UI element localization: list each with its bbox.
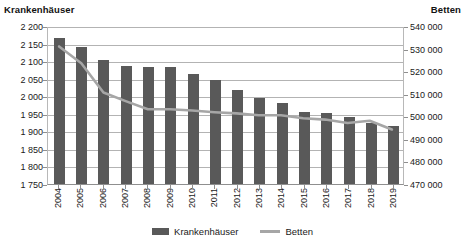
right-tick-mark bbox=[404, 117, 408, 118]
x-tick-label: 2016 bbox=[321, 188, 330, 208]
x-tick-label: 2012 bbox=[232, 188, 241, 208]
line-swatch-icon bbox=[260, 230, 280, 233]
x-tick-label: 2007 bbox=[121, 188, 130, 208]
legend-label-betten: Betten bbox=[285, 226, 312, 237]
legend-item-betten[interactable]: Betten bbox=[260, 226, 312, 237]
x-tick-label: 2006 bbox=[98, 188, 107, 208]
x-tick-mark bbox=[125, 185, 126, 189]
chart-legend: Krankenhäuser Betten bbox=[0, 226, 465, 237]
right-tick-label: 500 000 bbox=[410, 113, 443, 122]
x-tick-mark bbox=[393, 185, 394, 189]
x-tick-label: 2018 bbox=[366, 188, 375, 208]
x-tick-mark bbox=[326, 185, 327, 189]
left-tick-label: 1 800 bbox=[20, 163, 43, 172]
left-tick-label: 1 950 bbox=[20, 110, 43, 119]
left-tick-label: 2 200 bbox=[20, 23, 43, 32]
left-tick-mark bbox=[43, 185, 47, 186]
x-tick-mark bbox=[304, 185, 305, 189]
right-tick-label: 480 000 bbox=[410, 158, 443, 167]
x-tick-label: 2014 bbox=[277, 188, 286, 208]
right-axis-title: Betten bbox=[431, 4, 461, 15]
x-tick-label: 2009 bbox=[165, 188, 174, 208]
betten-line-path bbox=[59, 46, 392, 129]
right-tick-label: 470 000 bbox=[410, 181, 443, 190]
x-tick-label: 2015 bbox=[299, 188, 308, 208]
left-tick-label: 1 900 bbox=[20, 128, 43, 137]
right-tick-mark bbox=[404, 95, 408, 96]
right-tick-label: 490 000 bbox=[410, 135, 443, 144]
left-axis-title: Krankenhäuser bbox=[4, 4, 74, 15]
x-tick-label: 2010 bbox=[188, 188, 197, 208]
plot-area bbox=[47, 27, 404, 185]
x-tick-label: 2017 bbox=[344, 188, 353, 208]
left-tick-label: 2 000 bbox=[20, 93, 43, 102]
x-tick-mark bbox=[259, 185, 260, 189]
legend-label-krankenhaeuser: Krankenhäuser bbox=[174, 226, 238, 237]
x-tick-mark bbox=[170, 185, 171, 189]
x-tick-mark bbox=[281, 185, 282, 189]
x-tick-label: 2004 bbox=[54, 188, 63, 208]
right-tick-label: 530 000 bbox=[410, 45, 443, 54]
right-tick-mark bbox=[404, 162, 408, 163]
x-tick-mark bbox=[237, 185, 238, 189]
left-tick-label: 2 100 bbox=[20, 58, 43, 67]
x-tick-label: 2013 bbox=[254, 188, 263, 208]
right-tick-mark bbox=[404, 185, 408, 186]
x-tick-mark bbox=[147, 185, 148, 189]
right-tick-label: 540 000 bbox=[410, 23, 443, 32]
right-tick-mark bbox=[404, 50, 408, 51]
x-tick-mark bbox=[371, 185, 372, 189]
right-tick-mark bbox=[404, 72, 408, 73]
legend-item-krankenhaeuser[interactable]: Krankenhäuser bbox=[152, 226, 238, 237]
x-tick-mark bbox=[103, 185, 104, 189]
left-tick-label: 1 850 bbox=[20, 145, 43, 154]
right-tick-mark bbox=[404, 27, 408, 28]
left-tick-label: 2 050 bbox=[20, 75, 43, 84]
left-tick-label: 1 750 bbox=[20, 181, 43, 190]
x-tick-label: 2019 bbox=[388, 188, 397, 208]
x-tick-mark bbox=[348, 185, 349, 189]
right-tick-label: 520 000 bbox=[410, 68, 443, 77]
bar-swatch-icon bbox=[152, 228, 169, 235]
x-tick-mark bbox=[214, 185, 215, 189]
chart-container: Krankenhäuser Betten 1 7501 8001 8501 90… bbox=[0, 0, 465, 245]
x-tick-mark bbox=[192, 185, 193, 189]
x-tick-label: 2008 bbox=[143, 188, 152, 208]
x-tick-mark bbox=[80, 185, 81, 189]
x-tick-mark bbox=[58, 185, 59, 189]
x-tick-label: 2005 bbox=[76, 188, 85, 208]
line-series-betten bbox=[48, 27, 403, 184]
right-tick-mark bbox=[404, 140, 408, 141]
right-tick-label: 510 000 bbox=[410, 90, 443, 99]
x-tick-label: 2011 bbox=[210, 188, 219, 207]
left-tick-label: 2 150 bbox=[20, 40, 43, 49]
